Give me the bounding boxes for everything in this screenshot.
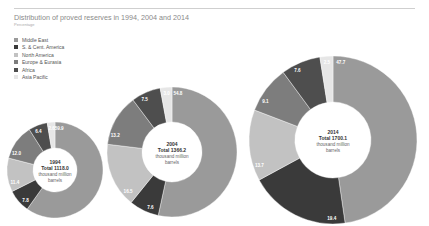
donut-charts: 59.97.811.412.06.42.61994Total 1118.0tho…: [0, 0, 429, 226]
segment-label: 3.0: [163, 91, 170, 96]
segment-label: 2.5: [324, 60, 331, 65]
segment-label: 6.4: [35, 129, 42, 134]
segment-label: 9.1: [262, 99, 269, 104]
center-label: thousand million: [155, 154, 189, 159]
center-label: barrels: [48, 178, 63, 183]
segment-label: 2.6: [48, 126, 55, 131]
center-label: thousand million: [316, 142, 350, 147]
donut-1994: 59.97.811.412.06.42.61994Total 1118.0tho…: [7, 122, 103, 218]
center-label: barrels: [326, 148, 341, 153]
center-label: Total 1118.0: [41, 165, 69, 171]
segment-label: 12.0: [12, 151, 21, 156]
segment-label: 11.4: [11, 180, 20, 185]
segment-label: 7.5: [141, 97, 148, 102]
donut-2014: 47.719.413.79.17.62.52014Total 1700.1tho…: [249, 56, 417, 224]
segment-label: 59.9: [55, 126, 64, 131]
segment-label: 7.8: [22, 198, 29, 203]
center-label: barrels: [165, 160, 180, 165]
center-label: Total 1366.2: [158, 147, 186, 153]
center-label: thousand million: [38, 172, 72, 177]
center-label: Total 1700.1: [319, 135, 347, 141]
donut-2004: 54.87.616.513.27.53.02004Total 1366.2tho…: [107, 87, 237, 217]
segment-label: 54.8: [173, 91, 182, 96]
segment-label: 13.7: [255, 163, 264, 168]
segment-label: 19.4: [327, 216, 336, 221]
segment-label: 16.5: [124, 189, 133, 194]
segment-label: 47.7: [336, 60, 345, 65]
segment-label: 7.6: [294, 68, 301, 73]
segment-label: 13.2: [111, 133, 120, 138]
segment-label: 7.6: [147, 205, 154, 210]
